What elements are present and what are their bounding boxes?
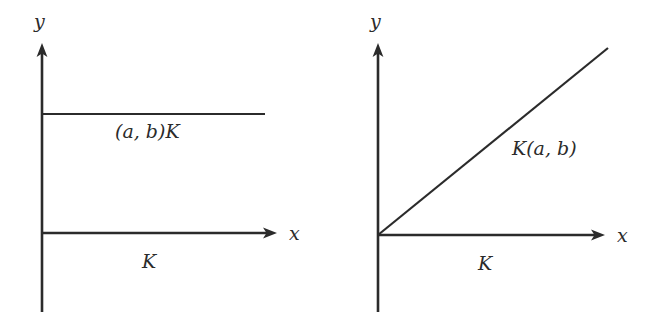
left-base-set-label: K	[141, 250, 158, 272]
left-x-axis-label: x	[289, 222, 300, 244]
right-image-set-label: K(a, b)	[511, 137, 577, 159]
scaled-cone-panel: y x K(a, b) K	[369, 10, 628, 312]
figure-container: y x (a, b)K K y x K(a, b) K	[0, 0, 660, 320]
left-y-axis-label: y	[33, 10, 45, 32]
cone-comparison-figure: y x (a, b)K K y x K(a, b) K	[0, 0, 660, 320]
left-image-set-label: (a, b)K	[115, 120, 181, 142]
right-x-axis-label: x	[617, 224, 628, 246]
degenerate-cone-panel: y x (a, b)K K	[33, 10, 300, 312]
right-base-set-label: K	[477, 252, 494, 274]
right-y-axis-label: y	[369, 10, 381, 32]
